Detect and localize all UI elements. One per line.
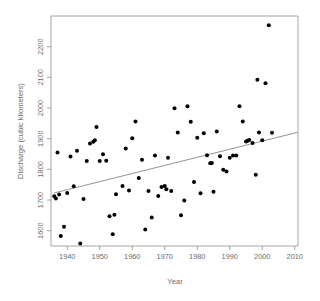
data-point <box>257 131 261 135</box>
y-tick-label: 2100 <box>36 69 45 85</box>
x-axis-title: Year <box>167 277 183 286</box>
scatter-plot-svg: 19401950196019701980199020002010 1600170… <box>0 0 320 301</box>
data-point <box>182 199 186 203</box>
data-point <box>202 131 206 135</box>
data-point <box>251 141 255 145</box>
x-tick-label: 2000 <box>254 252 270 261</box>
data-point <box>56 150 60 154</box>
data-point <box>95 125 99 129</box>
data-point <box>169 189 173 193</box>
data-point <box>114 192 118 196</box>
data-point <box>101 152 105 156</box>
data-point <box>112 213 116 217</box>
data-point <box>121 184 125 188</box>
data-point <box>85 159 89 163</box>
data-point <box>241 119 245 123</box>
data-point <box>104 159 108 163</box>
data-point <box>147 189 151 193</box>
data-point <box>127 188 131 192</box>
data-point <box>173 106 177 110</box>
data-point <box>195 136 199 140</box>
x-tick-label: 1940 <box>59 252 75 261</box>
data-point <box>270 131 274 135</box>
data-point <box>192 180 196 184</box>
data-point <box>225 169 229 173</box>
data-point <box>179 213 183 217</box>
data-point <box>234 154 238 158</box>
y-tick-label: 2000 <box>36 100 45 116</box>
data-point <box>72 184 76 188</box>
data-point <box>153 154 157 158</box>
y-axis-title: Discharge (cubic kilometers) <box>16 83 25 179</box>
y-tick-label: 1900 <box>36 130 45 146</box>
data-point <box>140 158 144 162</box>
data-point <box>69 154 73 158</box>
data-point <box>186 104 190 108</box>
data-point <box>264 81 268 85</box>
y-tick-label: 1800 <box>36 161 45 177</box>
data-point <box>59 234 63 238</box>
data-point <box>134 119 138 123</box>
data-point <box>205 153 209 157</box>
data-point <box>93 138 97 142</box>
x-tick-label: 1990 <box>222 252 238 261</box>
data-point <box>199 191 203 195</box>
data-point <box>212 190 216 194</box>
data-point <box>156 194 160 198</box>
data-point <box>166 156 170 160</box>
data-point <box>254 173 258 177</box>
x-tick-label: 1970 <box>157 252 173 261</box>
data-point <box>189 120 193 124</box>
y-tick-label: 2200 <box>36 38 45 54</box>
x-tick-label: 1950 <box>92 252 108 261</box>
data-point <box>164 187 168 191</box>
y-tick-label: 1700 <box>36 192 45 208</box>
data-point <box>54 196 58 200</box>
data-point <box>215 130 219 134</box>
data-point <box>108 214 112 218</box>
data-point <box>210 161 214 165</box>
x-tick-label: 1960 <box>124 252 140 261</box>
data-point <box>78 242 82 246</box>
data-point <box>267 23 271 27</box>
data-point <box>82 197 86 201</box>
x-tick-label: 1980 <box>189 252 205 261</box>
data-point <box>65 191 69 195</box>
data-point <box>176 131 180 135</box>
data-point <box>260 138 264 142</box>
y-tick-label: 1600 <box>36 222 45 238</box>
data-point <box>62 225 66 229</box>
data-point <box>130 136 134 140</box>
data-point <box>143 227 147 231</box>
data-point <box>218 154 222 158</box>
data-point <box>75 149 79 153</box>
data-point <box>255 78 259 82</box>
chart-container: 19401950196019701980199020002010 1600170… <box>0 0 320 301</box>
data-point <box>124 146 128 150</box>
data-point <box>57 192 61 196</box>
data-point <box>98 159 102 163</box>
data-point <box>238 104 242 108</box>
data-point <box>247 138 251 142</box>
x-tick-label: 2010 <box>287 252 303 261</box>
data-point <box>137 176 141 180</box>
data-point <box>150 215 154 219</box>
data-point <box>111 232 115 236</box>
